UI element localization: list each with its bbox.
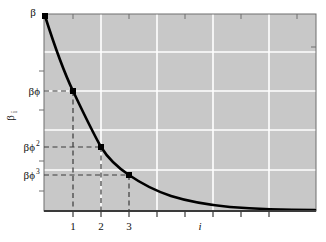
- x-axis-title: i: [198, 220, 201, 232]
- x-tick-label-3: 3: [126, 220, 132, 232]
- marker-point-3: [126, 172, 132, 178]
- y-tick-label-3-exponent: 3: [36, 167, 40, 176]
- x-tick-label-1: 1: [70, 220, 76, 232]
- y-tick-label-1: βϕ: [29, 85, 41, 97]
- y-tick-label-2-base: βϕ: [24, 141, 36, 153]
- marker-point-1: [70, 88, 76, 94]
- y-tick-label-3-base: βϕ: [24, 169, 36, 181]
- marker-point-2: [98, 144, 104, 150]
- plot-area-background: [44, 14, 316, 211]
- decay-chart-figure: β βϕ βϕ 2 βϕ 3 β i 1 2 3 i: [0, 0, 326, 242]
- origin-beta-label: β: [30, 6, 36, 18]
- marker-point-origin: [42, 13, 48, 19]
- x-tick-label-2: 2: [98, 220, 104, 232]
- y-axis-title-base: β: [4, 115, 16, 121]
- y-tick-label-2-exponent: 2: [36, 139, 40, 148]
- y-axis-title-subscript: i: [10, 111, 19, 113]
